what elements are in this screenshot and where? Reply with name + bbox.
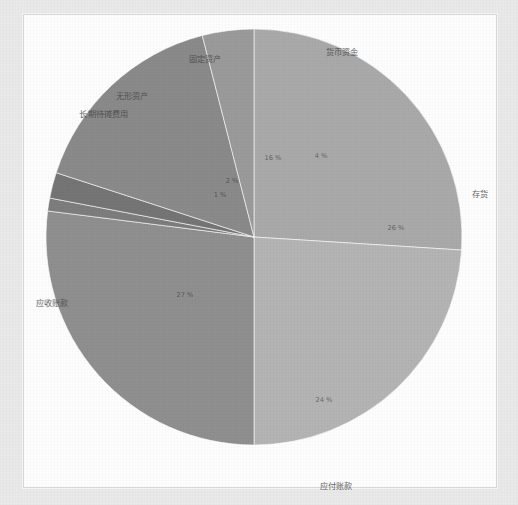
- slice-category-label: 存货: [472, 187, 488, 199]
- pie-slice[interactable]: [254, 29, 462, 250]
- pie-svg: 26 %24 %27 %1 %2 %16 %4 %: [24, 15, 496, 487]
- slice-category-label: 货币资金: [326, 45, 359, 57]
- slice-category-label: 无形资产: [116, 89, 149, 101]
- slice-category-label: 固定资产: [189, 52, 222, 64]
- slice-category-label: 应付账款: [320, 479, 353, 491]
- slice-category-label: 应收账款: [36, 296, 69, 308]
- slice-percent-label: 4 %: [315, 152, 328, 160]
- slice-percent-label: 24 %: [316, 396, 333, 404]
- chart-panel: 公司资产表 26 %24 %27 %1 %2 %16 %4 % 存货应付账款应收…: [23, 14, 497, 488]
- slice-percent-label: 1 %: [214, 191, 227, 199]
- slice-percent-label: 2 %: [226, 177, 239, 185]
- slice-percent-label: 26 %: [388, 224, 405, 232]
- slice-percent-label: 16 %: [265, 154, 282, 162]
- pie-chart: 26 %24 %27 %1 %2 %16 %4 %: [24, 15, 496, 487]
- slice-percent-label: 27 %: [177, 291, 194, 299]
- slice-category-label: 长期待摊费用: [79, 107, 128, 119]
- pie-slice[interactable]: [46, 211, 254, 445]
- pie-slice[interactable]: [254, 237, 462, 445]
